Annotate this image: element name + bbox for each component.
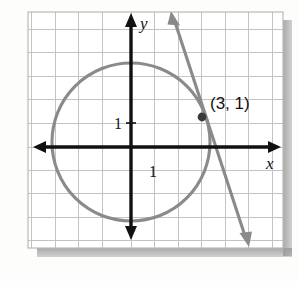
figure-root: y x 1 1 (3, 1) bbox=[0, 0, 298, 281]
panel-shadow-right bbox=[283, 20, 292, 256]
grid-panel bbox=[28, 12, 283, 248]
y-axis-scale-label: 1 bbox=[114, 115, 122, 132]
point-coordinate-label: (3, 1) bbox=[210, 94, 250, 113]
x-axis-scale-label: 1 bbox=[149, 163, 157, 180]
y-axis-label: y bbox=[138, 14, 148, 33]
x-axis-label: x bbox=[265, 154, 274, 173]
coordinate-plane-figure: y x 1 1 (3, 1) bbox=[0, 0, 298, 281]
marked-point-dot bbox=[198, 113, 207, 122]
panel-shadow-bottom bbox=[37, 248, 292, 257]
